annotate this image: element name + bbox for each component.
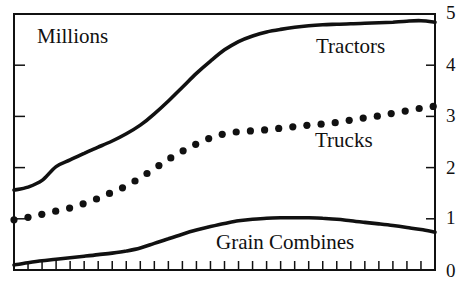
series-label-grain-combines: Grain Combines xyxy=(216,230,354,255)
y-tick-label-1: 1 xyxy=(446,207,456,229)
series-label-trucks: Trucks xyxy=(315,128,373,153)
y-tick-label-2: 2 xyxy=(446,157,456,179)
unit-label: Millions xyxy=(37,24,108,49)
series-label-tractors: Tractors xyxy=(316,34,385,59)
y-tick-label-5: 5 xyxy=(446,2,456,24)
y-tick-label-3: 3 xyxy=(446,105,456,127)
y-tick-label-0: 0 xyxy=(446,260,456,282)
y-tick-label-4: 4 xyxy=(446,54,456,76)
series-trucks xyxy=(10,103,436,224)
